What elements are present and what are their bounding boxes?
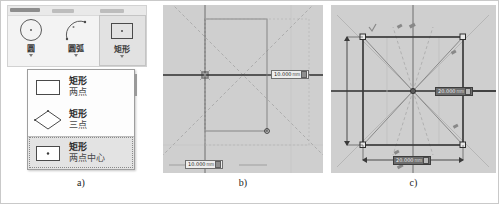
chevron-down-icon-rectangle[interactable]: [120, 55, 124, 58]
center-point-marker-c: [410, 88, 415, 93]
menu-item-rectangle-center-two-point[interactable]: 矩形 两点中心: [28, 136, 134, 169]
tool-button-circle[interactable]: 圆: [8, 15, 53, 66]
lock-icon-width-b[interactable]: [215, 161, 221, 168]
menu-item-rectangle-two-point[interactable]: 矩形 两点: [28, 70, 134, 103]
menu-subtitle-three-point: 三点: [69, 120, 87, 131]
rectangle-three-point-icon: [32, 108, 64, 132]
panel-a: 圆 圆弧: [5, 5, 157, 201]
dimension-value-width-c: 20.000: [437, 88, 457, 95]
panel-c: 20.000 mm 20.000 mm c): [331, 5, 496, 201]
ribbon-toolbar: 圆 圆弧: [7, 5, 147, 67]
menu-item-rectangle-three-point[interactable]: 矩形 三点: [28, 103, 134, 136]
tool-button-rectangle[interactable]: 矩形: [99, 15, 146, 66]
lock-icon-height-c[interactable]: [423, 157, 429, 164]
chevron-down-icon-arc[interactable]: [74, 54, 78, 57]
flyout-scrollbar[interactable]: [134, 74, 137, 96]
panel-caption-a: a): [5, 177, 157, 188]
menu-subtitle-center-two-point: 两点中心: [69, 153, 105, 164]
rectangle-tool-icon: [105, 19, 139, 44]
lock-icon-height-b[interactable]: [301, 71, 307, 78]
dimension-value-width-b: 10.000: [187, 161, 207, 168]
chevron-down-icon-circle[interactable]: [29, 54, 33, 57]
cad-canvas-b[interactable]: 10.000 mm 10.000 mm: [163, 5, 323, 173]
dimension-unit-width-b: mm: [207, 162, 216, 167]
tool-label-rectangle: 矩形: [114, 45, 130, 54]
menu-title-two-point: 矩形: [69, 76, 87, 87]
menu-title-three-point: 矩形: [69, 109, 87, 120]
dimension-value-height-b: 10.000: [273, 71, 293, 78]
ribbon-tab-blur-1: [52, 9, 74, 13]
ribbon-tab-blur-2: [100, 9, 124, 13]
panel-a-stage: 圆 圆弧: [5, 5, 157, 175]
dimension-unit-width-c: mm: [457, 89, 466, 94]
dimension-value-height-c: 20.000: [395, 157, 415, 164]
figure-container: 圆 圆弧: [0, 0, 499, 204]
rectangle-flyout-menu: 矩形 两点 矩形 三点: [27, 69, 135, 170]
dimension-input-width-c[interactable]: 20.000 mm: [435, 87, 473, 96]
menu-item-text-two-point: 矩形 两点: [69, 76, 87, 98]
dimension-input-height-c[interactable]: 20.000 mm: [393, 156, 431, 165]
rectangle-center-two-point-icon: [32, 141, 64, 165]
ribbon-title-blur: [10, 8, 40, 12]
cad-canvas-c[interactable]: 20.000 mm 20.000 mm: [331, 5, 496, 173]
ribbon-tool-row: 圆 圆弧: [8, 15, 146, 66]
dimension-unit-height-c: mm: [415, 158, 424, 163]
panel-b-stage: 10.000 mm 10.000 mm: [163, 5, 323, 175]
cad-sketch-b: [163, 5, 323, 173]
panel-caption-c: c): [331, 177, 496, 188]
tool-button-arc[interactable]: 圆弧: [53, 15, 98, 66]
panel-caption-b: b): [163, 177, 323, 188]
inference-guides-b: [163, 5, 323, 155]
lock-icon-width-c[interactable]: [465, 88, 471, 95]
arc-tool-icon: [59, 18, 93, 43]
rectangle-two-point-icon: [32, 75, 64, 99]
tool-label-circle: 圆: [27, 44, 35, 53]
menu-title-center-two-point: 矩形: [69, 142, 105, 153]
menu-item-text-center-two-point: 矩形 两点中心: [69, 142, 105, 164]
circle-tool-icon: [14, 18, 48, 43]
tool-label-arc: 圆弧: [68, 44, 84, 53]
menu-item-text-three-point: 矩形 三点: [69, 109, 87, 131]
dimension-unit-height-b: mm: [293, 72, 302, 77]
menu-subtitle-two-point: 两点: [69, 87, 87, 98]
dimension-input-height-b[interactable]: 10.000 mm: [271, 70, 309, 79]
dimension-input-width-b[interactable]: 10.000 mm: [185, 160, 223, 169]
panel-c-stage: 20.000 mm 20.000 mm: [331, 5, 496, 175]
panel-b: 10.000 mm 10.000 mm b): [163, 5, 323, 201]
